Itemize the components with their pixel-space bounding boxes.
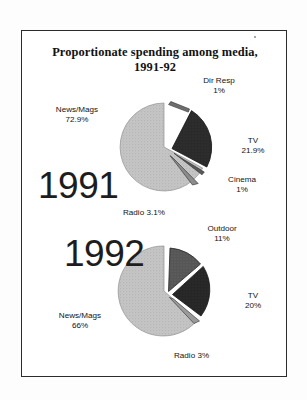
slice-label-value: 20% bbox=[232, 301, 274, 311]
year-label-1991: 1991 bbox=[38, 167, 118, 204]
slice-label-name: News/Mags bbox=[40, 105, 114, 115]
slice-1991-dir-resp bbox=[169, 102, 190, 113]
pie-chart-1991: 1991 News/Mags 72.9% Dir Resp 1% TV 21.9… bbox=[22, 75, 288, 227]
scanned-page: Proportionate spending among media, 1991… bbox=[0, 0, 307, 400]
slice-label-value: 1% bbox=[218, 185, 266, 195]
slice-label-1991-cinema: Cinema 1% bbox=[218, 175, 266, 194]
pie-1991-svg bbox=[114, 75, 226, 227]
slice-label-name: TV bbox=[232, 291, 274, 301]
scan-speck bbox=[254, 36, 256, 38]
slice-label-1992-outdoor: Outdoor 11% bbox=[192, 224, 252, 243]
slice-label-1991-dir-resp: Dir Resp 1% bbox=[190, 76, 248, 95]
page-title: Proportionate spending among media, 1991… bbox=[22, 45, 288, 75]
slice-label-value: 66% bbox=[40, 321, 120, 331]
pie-chart-1992: 1992 Outdoor 11% TV 20% News/Mags 66% Ra… bbox=[22, 207, 288, 367]
figure-title-line-2: 1991-92 bbox=[22, 60, 288, 75]
slice-label-name: News/Mags bbox=[40, 311, 120, 321]
slice-label-name: Outdoor bbox=[192, 224, 252, 234]
slice-label-name: Dir Resp bbox=[190, 76, 248, 86]
figure-title-line-1: Proportionate spending among media, bbox=[52, 45, 258, 59]
slice-label-name-value: Radio 3% bbox=[174, 351, 209, 360]
slice-label-value: 21.9% bbox=[230, 146, 276, 156]
figure-frame: Proportionate spending among media, 1991… bbox=[21, 30, 287, 377]
slice-label-name: Cinema bbox=[218, 175, 266, 185]
slice-label-1991-news-mags: News/Mags 72.9% bbox=[40, 105, 114, 124]
slice-label-name: TV bbox=[230, 136, 276, 146]
slice-label-1992-news-mags: News/Mags 66% bbox=[40, 311, 120, 330]
slice-label-1991-tv: TV 21.9% bbox=[230, 136, 276, 155]
year-label-1992: 1992 bbox=[64, 235, 144, 272]
slice-label-value: 72.9% bbox=[40, 115, 114, 125]
slice-label-1992-tv: TV 20% bbox=[232, 291, 274, 310]
slice-label-1992-radio: Radio 3% bbox=[174, 351, 266, 361]
slice-label-value: 11% bbox=[192, 234, 252, 244]
slice-label-value: 1% bbox=[190, 86, 248, 96]
